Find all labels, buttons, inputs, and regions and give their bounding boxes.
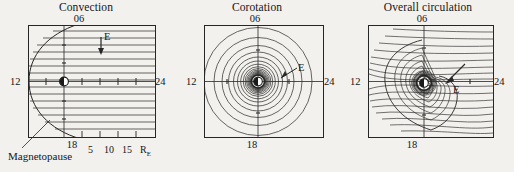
radial-tick-15: 15	[122, 145, 132, 155]
efield-label-corotation: E	[298, 62, 304, 73]
hour-label-24-overall: 24	[494, 76, 505, 87]
panel-title-corotation: Corotation	[172, 1, 342, 13]
hour-label-18-convection: 18	[62, 139, 82, 150]
plot-area-corotation	[204, 25, 324, 138]
radial-axis-unit-subscript: E	[147, 150, 151, 158]
earth-symbol-corotation	[254, 77, 263, 86]
contours-corotation	[205, 26, 323, 137]
radial-tick-10: 10	[104, 145, 114, 155]
hour-label-06-overall: 06	[330, 13, 514, 24]
panel-title-overall-circulation: Overall circulation	[342, 1, 514, 13]
efield-leader-corotation	[281, 68, 297, 78]
hour-label-12-convection: 12	[10, 76, 21, 87]
magnetopause-label: Magnetopause	[8, 150, 72, 162]
hour-label-18-overall: 18	[402, 139, 422, 150]
plot-area-overall	[368, 25, 494, 138]
panel-corotation: Corotation 06 12 24 18	[172, 0, 342, 172]
magnetopause-leader	[20, 118, 65, 150]
hour-label-06-corotation: 06	[168, 13, 342, 24]
figure-root: Convection 06 12 24 18	[0, 0, 514, 172]
efield-label-convection: E	[104, 31, 110, 42]
hour-label-24-corotation: 24	[324, 76, 335, 87]
panel-overall-circulation: Overall circulation 06 12 24 18	[342, 0, 514, 172]
earth-symbol-overall	[420, 79, 429, 88]
radial-tick-5: 5	[88, 145, 93, 155]
contours-overall	[369, 26, 493, 137]
hour-label-18-corotation: 18	[242, 139, 262, 150]
efield-label-overall: E	[453, 84, 459, 95]
radial-axis-unit: RE	[140, 145, 151, 159]
earth-symbol-convection	[60, 77, 69, 86]
hour-label-12-overall: 12	[350, 76, 361, 87]
panel-convection: Convection 06 12 24 18	[0, 0, 172, 172]
hour-label-24-convection: 24	[155, 76, 166, 87]
hour-label-12-corotation: 12	[186, 76, 197, 87]
hour-label-06-convection: 06	[0, 13, 172, 24]
radial-axis-unit-symbol: R	[140, 144, 147, 155]
panel-title-convection: Convection	[0, 1, 172, 13]
